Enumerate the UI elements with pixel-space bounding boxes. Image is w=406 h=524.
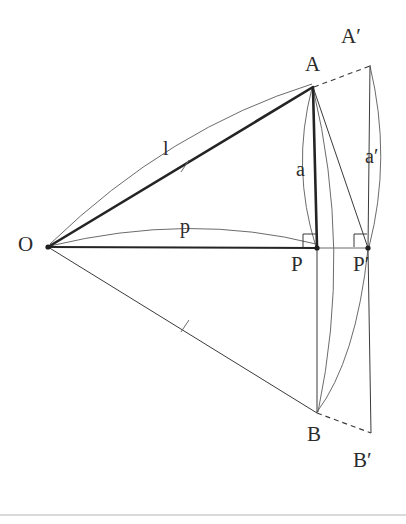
vertex-label-A-prime: A′ [341, 26, 361, 47]
vertex-label-A: A [305, 54, 320, 75]
segment-A-Pp [313, 87, 368, 248]
geometry-canvas [0, 0, 406, 524]
segment-O-P [48, 247, 317, 248]
vertex-label-B: B [307, 424, 321, 445]
measure-label-p: p [180, 216, 190, 236]
vertex-label-P-prime: P′ [353, 254, 369, 275]
segment-B-Bp [317, 413, 371, 433]
point-marker-Pp [365, 245, 370, 250]
measure-label-l: l [163, 138, 169, 158]
tick-on-OB [181, 320, 189, 332]
geometry-figure: O A A′ P P′ B B′ l p a a′ [0, 0, 406, 524]
measure-label-a-prime: a′ [365, 146, 378, 166]
vertex-label-P: P [291, 254, 303, 275]
segment-A-P [313, 88, 317, 247]
vertex-label-O: O [18, 234, 33, 255]
point-marker-O [45, 244, 50, 249]
vertex-label-B-prime: B′ [353, 450, 372, 471]
segment-A-Ap [314, 66, 370, 87]
point-marker-P [314, 245, 319, 250]
measure-label-a: a [296, 159, 305, 179]
